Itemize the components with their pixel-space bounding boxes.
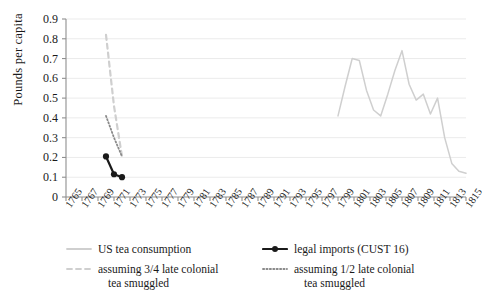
legend-label: assuming 1/2 late colonial bbox=[294, 263, 414, 276]
legend-swatch bbox=[66, 263, 92, 275]
chart-legend: US tea consumptionlegal imports (CUST 16… bbox=[66, 243, 466, 299]
legend-label: assuming 3/4 late colonial bbox=[98, 263, 218, 276]
legend-label-line2: tea smuggled bbox=[108, 277, 169, 290]
legend-swatch bbox=[66, 243, 92, 255]
x-axis-tick-label: 1815 bbox=[464, 187, 485, 210]
legend-label: US tea consumption bbox=[98, 243, 191, 256]
legend-swatch bbox=[262, 243, 288, 255]
legend-label: legal imports (CUST 16) bbox=[294, 243, 408, 256]
legend-swatch bbox=[262, 263, 288, 275]
legend-label-line2: tea smuggled bbox=[304, 277, 365, 290]
